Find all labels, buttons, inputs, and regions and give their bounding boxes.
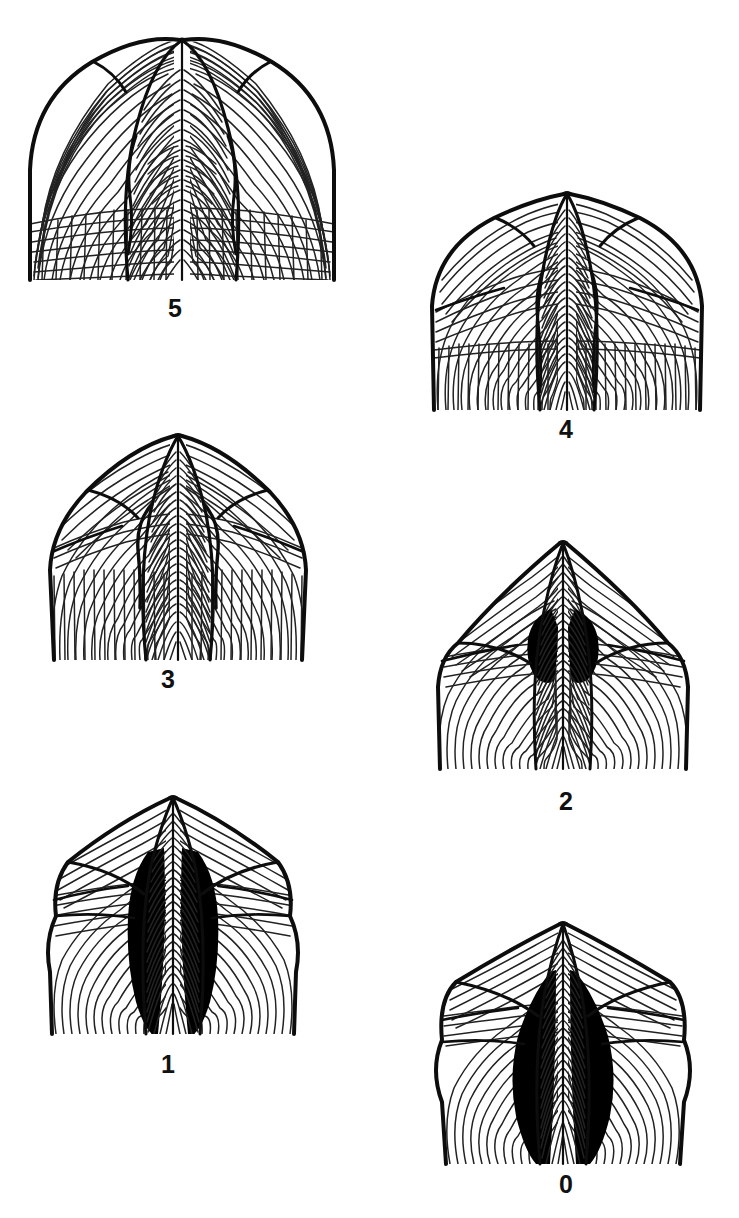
specimen-label-5: 5 xyxy=(160,296,190,321)
specimen-4-svg xyxy=(408,172,726,414)
specimen-drawing-3 xyxy=(28,428,328,664)
specimen-label-2: 2 xyxy=(551,789,581,814)
specimen-label-4: 4 xyxy=(551,417,581,442)
specimen-drawing-4 xyxy=(408,172,726,414)
specimen-label-0: 0 xyxy=(551,1172,581,1197)
specimen-0-svg xyxy=(412,920,712,1168)
specimen-2-svg xyxy=(418,535,708,773)
specimen-3-svg xyxy=(28,428,328,664)
specimen-drawing-2 xyxy=(418,535,708,773)
specimen-1-svg xyxy=(22,790,322,1038)
specimen-drawing-5 xyxy=(8,18,356,286)
specimen-drawing-0 xyxy=(412,920,712,1168)
specimen-drawing-1 xyxy=(22,790,322,1038)
figure-canvas: 5 xyxy=(0,0,739,1218)
specimen-label-3: 3 xyxy=(153,667,183,692)
specimen-label-1: 1 xyxy=(153,1052,183,1077)
specimen-5-svg xyxy=(8,18,356,286)
